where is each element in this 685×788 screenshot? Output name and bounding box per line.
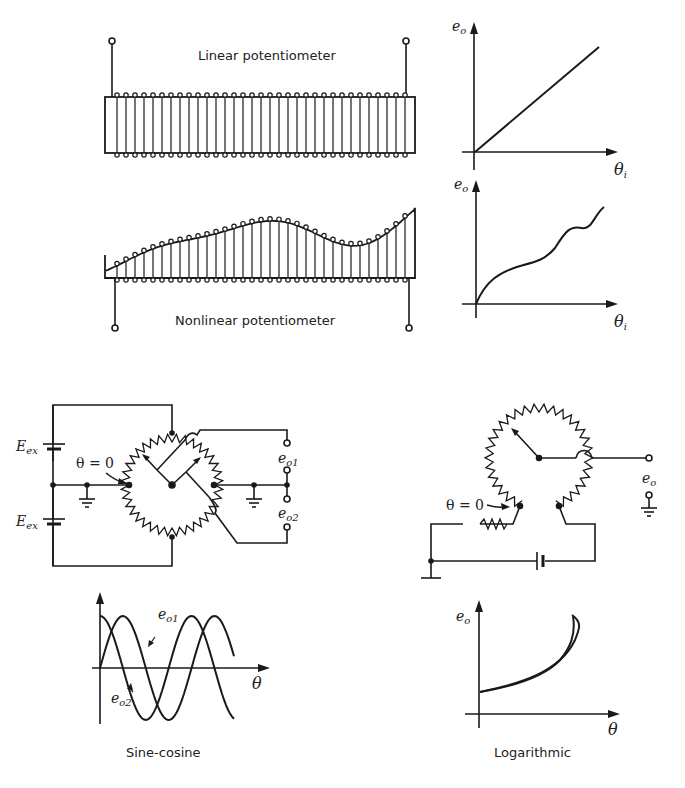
nonlinear-graph-y-label: eo	[454, 176, 468, 194]
nonlinear-graph	[462, 180, 618, 318]
logarithmic-circuit	[421, 404, 657, 578]
linear-graph-x-label: θi	[614, 160, 627, 180]
curve-eo1-label: eo1	[158, 606, 179, 624]
theta-zero-label: θ = 0	[76, 455, 114, 471]
sine-graph-x-label: θ	[252, 674, 262, 693]
source-bottom-label: Eex	[16, 513, 38, 531]
output1-label: eo1	[278, 450, 299, 468]
logarithmic-caption: Logarithmic	[494, 745, 571, 760]
linear-graph	[462, 22, 618, 170]
potentiometer-diagram	[0, 0, 685, 788]
linear-graph-y-label: eo	[452, 18, 466, 36]
sine-cosine-circuit	[43, 405, 290, 566]
log-graph-x-label: θ	[608, 720, 618, 739]
log-graph-y-label: eo	[456, 608, 470, 626]
logarithmic-graph	[465, 600, 620, 728]
source-top-label: Eex	[16, 438, 38, 456]
nonlinear-graph-x-label: θi	[614, 312, 627, 332]
nonlinear-potentiometer-caption: Nonlinear potentiometer	[175, 313, 335, 328]
curve-eo2-label: eo2	[111, 690, 132, 708]
output2-label: eo2	[278, 505, 299, 523]
log-theta-zero-label: θ = 0	[446, 497, 484, 513]
log-output-label: eo	[642, 470, 656, 488]
sine-cosine-caption: Sine-cosine	[126, 745, 201, 760]
linear-potentiometer-caption: Linear potentiometer	[198, 48, 336, 63]
